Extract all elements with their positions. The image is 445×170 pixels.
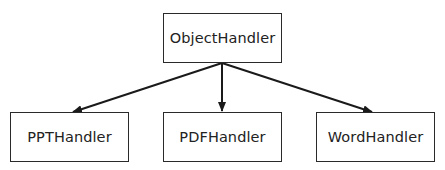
- node-object-handler: ObjectHandler: [163, 13, 282, 63]
- node-label: PPTHandler: [27, 129, 111, 145]
- node-ppt-handler: PPTHandler: [10, 112, 129, 162]
- edge-object-to-ppt: [73, 63, 222, 112]
- node-label: ObjectHandler: [170, 30, 276, 46]
- node-label: WordHandler: [328, 129, 423, 145]
- edge-object-to-word: [222, 63, 372, 112]
- node-pdf-handler: PDFHandler: [163, 112, 282, 162]
- node-word-handler: WordHandler: [316, 112, 435, 162]
- node-label: PDFHandler: [179, 129, 265, 145]
